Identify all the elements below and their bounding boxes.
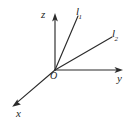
- ray-l1-group: [55, 16, 78, 70]
- ray-l1-label-subscript: 1: [79, 13, 83, 21]
- ray-l2-group: [55, 37, 112, 70]
- ray-l2-label-subscript: 2: [115, 35, 119, 43]
- y-axis-group: [55, 67, 123, 73]
- z-axis-group: [52, 13, 58, 70]
- ray-l1-line: [55, 16, 78, 70]
- z-axis-label: z: [41, 9, 45, 20]
- x-axis-group: [12, 70, 55, 107]
- y-axis-label: y: [117, 73, 122, 84]
- x-axis-label: x: [16, 108, 21, 119]
- ray-l1-label: l1: [76, 6, 83, 20]
- coordinate-system-figure: z y x O l1 l2: [0, 0, 131, 126]
- ray-l2-label: l2: [112, 28, 119, 42]
- origin-label: O: [50, 71, 57, 81]
- ray-l2-line: [55, 37, 112, 70]
